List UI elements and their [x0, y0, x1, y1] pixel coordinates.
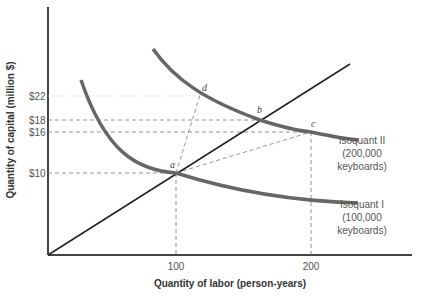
- point-label-a: a: [170, 159, 175, 170]
- isoquant-chart: a b c d $22 $18 $16 $10 100 200 Quantity…: [0, 0, 421, 299]
- y-axis-title: Quantity of capital (million $): [5, 61, 16, 198]
- isoquant-2-curve: [153, 49, 358, 140]
- x-axis-title: Quantity of labor (person-years): [154, 278, 306, 289]
- isoquant-1-curve: [81, 80, 358, 203]
- y-tick-22: $22: [29, 91, 46, 102]
- isoquant-1-label-line1: Isoquant I: [340, 199, 384, 210]
- isoquant-1-label-line3: keyboards): [337, 225, 386, 236]
- isoquant-2-label-line3: keyboards): [337, 161, 386, 172]
- point-label-b: b: [257, 104, 262, 115]
- y-tick-18: $18: [29, 115, 46, 126]
- x-tick-100: 100: [168, 261, 185, 272]
- y-tick-10: $10: [29, 168, 46, 179]
- isoquant-2-label-line2: (200,000: [342, 148, 382, 159]
- x-tick-200: 200: [303, 261, 320, 272]
- isoquant-1-label-line2: (100,000: [342, 212, 382, 223]
- y-tick-16: $16: [29, 127, 46, 138]
- point-label-c: c: [311, 118, 316, 129]
- isoquant-2-label-line1: Isoquant II: [339, 135, 386, 146]
- point-label-d: d: [202, 82, 208, 93]
